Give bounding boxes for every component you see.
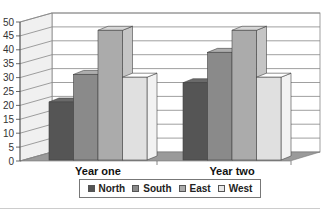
svg-text:15: 15: [3, 114, 15, 125]
legend-label: South: [143, 183, 171, 194]
legend-item-east: East: [179, 183, 211, 194]
bar-west-2: [257, 73, 292, 160]
legend-item-north: North: [88, 183, 126, 194]
svg-text:45: 45: [3, 30, 15, 41]
svg-text:Year two: Year two: [209, 165, 255, 177]
svg-text:30: 30: [3, 72, 15, 83]
legend-label: North: [99, 183, 126, 194]
svg-text:Year one: Year one: [75, 165, 121, 177]
svg-text:20: 20: [3, 100, 15, 111]
legend-label: West: [229, 183, 253, 194]
legend-swatch-east: [179, 185, 186, 192]
svg-text:35: 35: [3, 58, 15, 69]
svg-text:40: 40: [3, 44, 15, 55]
legend-item-south: South: [132, 183, 171, 194]
legend-label: East: [190, 183, 211, 194]
divider: [0, 208, 320, 209]
y-axis: 05101520253035404550: [3, 17, 20, 167]
legend-item-west: West: [218, 183, 253, 194]
bar-west-1: [123, 73, 158, 160]
svg-text:25: 25: [3, 86, 15, 97]
svg-text:10: 10: [3, 128, 15, 139]
svg-text:5: 5: [8, 142, 14, 153]
svg-text:0: 0: [8, 156, 14, 167]
legend-swatch-north: [88, 185, 95, 192]
legend: North South East West: [79, 179, 261, 198]
x-axis-labels: Year oneYear two: [75, 161, 291, 177]
legend-swatch-south: [132, 185, 139, 192]
legend-swatch-west: [218, 185, 225, 192]
svg-text:50: 50: [3, 17, 15, 28]
